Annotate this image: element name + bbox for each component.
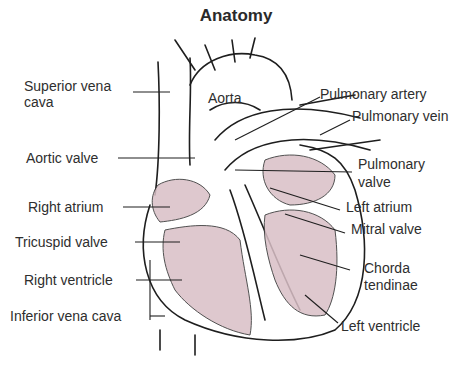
label-chorda-tendinae-line1: Chorda bbox=[364, 260, 410, 276]
label-right-atrium: Right atrium bbox=[28, 199, 103, 215]
label-pulmonary-artery: Pulmonary artery bbox=[320, 86, 427, 102]
label-pulmonary-valve-line1: Pulmonary bbox=[358, 156, 425, 172]
label-inferior-vena-cava: Inferior vena cava bbox=[10, 308, 121, 324]
label-aortic-valve: Aortic valve bbox=[26, 150, 98, 166]
right-atrium-region bbox=[152, 179, 210, 222]
label-pulmonary-vein: Pulmonary vein bbox=[352, 108, 449, 124]
label-chorda-tendinae-line2: tendinae bbox=[364, 277, 418, 293]
label-superior-vena-cava-line2: cava bbox=[24, 94, 54, 110]
label-pulmonary-valve-line2: valve bbox=[358, 174, 391, 190]
heart-anatomy-diagram: Anatomy bbox=[0, 0, 472, 368]
svc-left-wall bbox=[155, 62, 159, 195]
label-aorta: Aorta bbox=[208, 90, 241, 106]
label-mitral-valve: Mitral valve bbox=[351, 221, 422, 237]
label-superior-vena-cava-line1: Superior vena bbox=[24, 78, 111, 94]
label-left-ventricle: Left ventricle bbox=[341, 318, 420, 334]
label-tricuspid-valve: Tricuspid valve bbox=[15, 234, 108, 250]
label-right-ventricle: Right ventricle bbox=[24, 272, 113, 288]
label-left-atrium: Left atrium bbox=[346, 199, 412, 215]
